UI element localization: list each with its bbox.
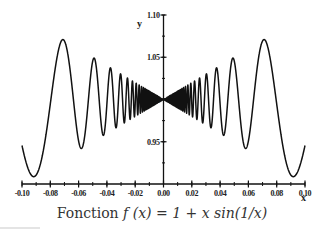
x-tick-label: 0.00 [157, 189, 170, 198]
x-tick-label: -0.04 [100, 189, 115, 198]
caption-formula: f (x) = 1 + x sin(1/x) [123, 205, 267, 221]
x-tick-label: 0.08 [270, 189, 283, 198]
chart-caption: Fonction f (x) = 1 + x sin(1/x) [0, 205, 324, 221]
y-tick-label: 1.10 [147, 11, 160, 20]
divider [0, 227, 40, 229]
x-tick-label: -0.02 [128, 189, 143, 198]
chart-plot: -0.10-0.08-0.06-0.04-0.020.000.020.040.0… [0, 0, 324, 205]
x-tick-label: 0.04 [214, 189, 227, 198]
x-tick-label: -0.08 [43, 189, 58, 198]
y-tick-label: 1.05 [147, 53, 160, 62]
y-tick-label: 0.95 [147, 138, 160, 147]
caption-prefix: Fonction [57, 205, 119, 221]
x-tick-label: -0.06 [71, 189, 86, 198]
x-tick-label: -0.10 [15, 189, 30, 198]
y-axis-label: y [137, 18, 142, 29]
x-tick-label: 0.02 [186, 189, 199, 198]
x-tick-label: 0.06 [242, 189, 255, 198]
x-axis-label: x [301, 192, 306, 203]
